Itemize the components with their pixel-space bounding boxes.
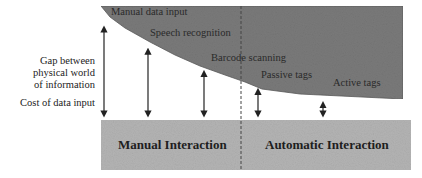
method-label-passive-tags: Passive tags xyxy=(261,69,312,80)
gap-label-line-3: of information xyxy=(0,79,95,91)
band-label-manual: Manual Interaction xyxy=(118,137,227,153)
method-label-barcode-scanning: Barcode scanning xyxy=(211,52,286,63)
cost-label: Cost of data input xyxy=(0,97,95,109)
gap-label-line-2: physical world xyxy=(0,67,95,79)
band-label-automatic: Automatic Interaction xyxy=(265,137,389,153)
method-label-speech-recognition: Speech recognition xyxy=(150,27,231,38)
gap-label: Gap between physical world of informatio… xyxy=(0,55,95,91)
method-label-active-tags: Active tags xyxy=(333,77,381,88)
method-label-manual-data-input: Manual data input xyxy=(111,6,187,17)
gap-label-line-1: Gap between xyxy=(0,55,95,67)
